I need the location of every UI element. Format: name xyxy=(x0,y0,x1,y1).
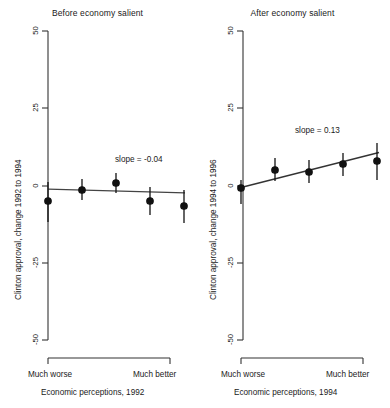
plot-area-before xyxy=(0,0,195,408)
panel-before-economy-salient: Before economy salient Clinton approval,… xyxy=(0,0,195,408)
plot-area-after xyxy=(195,0,390,408)
panel-after-economy-salient: After economy salient Clinton approval, … xyxy=(195,0,390,408)
figure-canvas: Before economy salient Clinton approval,… xyxy=(0,0,390,408)
